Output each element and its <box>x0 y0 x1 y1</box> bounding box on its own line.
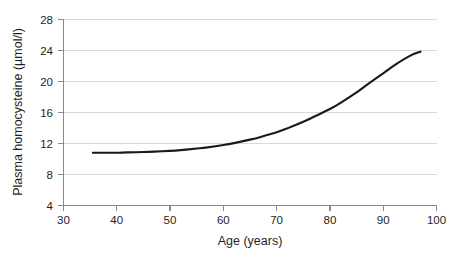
y-axis-title: Plasma homocysteine (µmol/l) <box>11 28 25 196</box>
x-tick-label-100: 100 <box>427 214 446 226</box>
x-tick-label-70: 70 <box>270 214 283 226</box>
x-tick-label-30: 30 <box>57 214 70 226</box>
chart-container: 28 24 20 16 12 8 4 30 40 50 60 70 80 90 … <box>0 0 469 263</box>
y-tick-label-20: 20 <box>40 76 53 88</box>
y-tick-label-12: 12 <box>40 138 53 150</box>
chart-background <box>0 0 469 263</box>
y-tick-label-24: 24 <box>40 45 53 57</box>
y-tick-label-16: 16 <box>40 107 53 119</box>
y-tick-label-4: 4 <box>47 200 54 212</box>
x-tick-label-80: 80 <box>324 214 337 226</box>
x-tick-label-90: 90 <box>377 214 390 226</box>
x-axis-title: Age (years) <box>218 234 283 248</box>
y-tick-label-28: 28 <box>40 14 53 26</box>
x-tick-label-50: 50 <box>164 214 177 226</box>
x-tick-label-60: 60 <box>217 214 230 226</box>
x-tick-label-40: 40 <box>110 214 123 226</box>
line-chart: 28 24 20 16 12 8 4 30 40 50 60 70 80 90 … <box>0 0 469 263</box>
y-tick-label-8: 8 <box>47 169 53 181</box>
